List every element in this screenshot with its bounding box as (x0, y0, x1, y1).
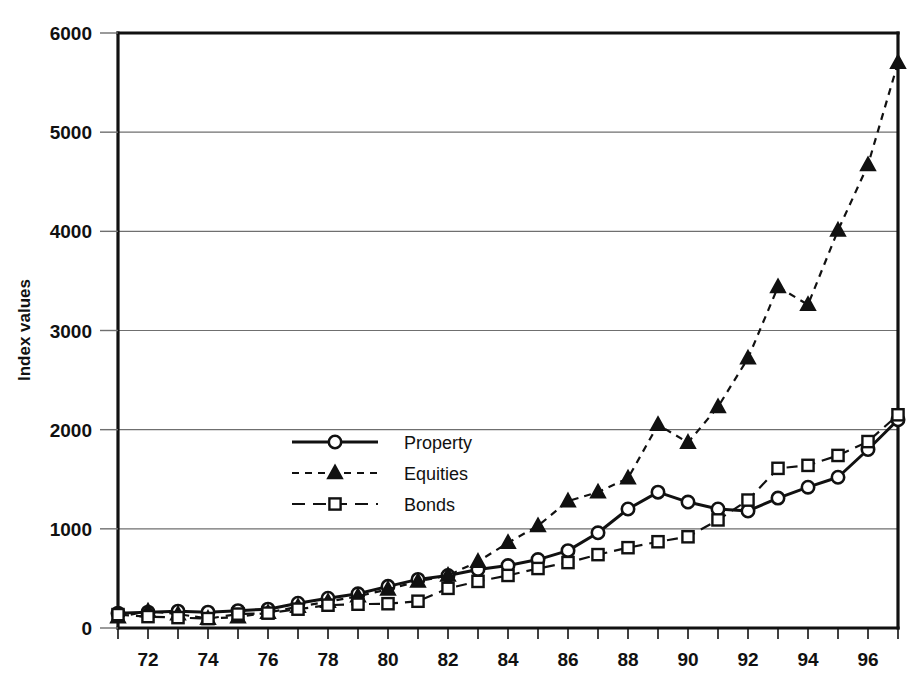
x-tick-label-88: 88 (617, 649, 638, 670)
marker-circle (682, 496, 694, 508)
marker-triangle (591, 485, 605, 498)
x-tick-label-80: 80 (377, 649, 398, 670)
y-tick-label-1000: 1000 (50, 519, 92, 540)
marker-square (172, 612, 183, 623)
legend-label-bonds: Bonds (404, 495, 455, 515)
gridlines-group (118, 33, 898, 529)
marker-circle (329, 436, 341, 448)
marker-square (802, 460, 813, 471)
x-tick-label-84: 84 (497, 649, 519, 670)
data-series-group (111, 55, 905, 624)
marker-square (832, 450, 843, 461)
marker-triangle (621, 471, 635, 484)
marker-square (862, 436, 873, 447)
series-line-property (118, 420, 898, 613)
y-tick-label-3000: 3000 (50, 321, 92, 342)
marker-square (412, 596, 423, 607)
marker-square (502, 570, 513, 581)
x-tick-label-96: 96 (857, 649, 878, 670)
marker-square (682, 531, 693, 542)
y-tick-label-4000: 4000 (50, 221, 92, 242)
x-tick-label-78: 78 (317, 649, 338, 670)
marker-circle (652, 486, 664, 498)
marker-square (742, 494, 753, 505)
marker-circle (832, 471, 844, 483)
legend-item-equities[interactable]: Equities (292, 464, 468, 484)
marker-square (472, 576, 483, 587)
series-line-bonds (118, 415, 898, 619)
marker-triangle (831, 223, 845, 236)
marker-square (592, 549, 603, 560)
marker-square (652, 536, 663, 547)
x-tick-label-76: 76 (257, 649, 278, 670)
marker-square (202, 613, 213, 624)
marker-triangle (801, 297, 815, 310)
y-tick-label-2000: 2000 (50, 420, 92, 441)
legend-label-equities: Equities (404, 464, 468, 484)
marker-square (262, 608, 273, 619)
marker-square (772, 463, 783, 474)
marker-square (292, 604, 303, 615)
series-bonds (112, 409, 903, 624)
x-tick-label-72: 72 (137, 649, 158, 670)
marker-triangle (741, 351, 755, 364)
legend-label-property: Property (404, 433, 472, 453)
marker-square (142, 611, 153, 622)
x-tick-label-90: 90 (677, 649, 698, 670)
marker-triangle (651, 417, 665, 430)
marker-square (112, 609, 123, 620)
marker-square (892, 409, 903, 420)
marker-circle (802, 481, 814, 493)
y-tick-label-6000: 6000 (50, 23, 92, 44)
marker-triangle (711, 399, 725, 412)
marker-triangle (328, 466, 342, 479)
y-axis-tick-labels: 0100020003000400050006000 (50, 23, 92, 639)
marker-square (322, 600, 333, 611)
marker-square (329, 498, 340, 509)
marker-circle (592, 527, 604, 539)
x-tick-label-94: 94 (797, 649, 819, 670)
y-axis-ticks (100, 33, 118, 628)
marker-square (382, 598, 393, 609)
marker-circle (562, 544, 574, 556)
x-tick-label-86: 86 (557, 649, 578, 670)
y-tick-label-0: 0 (81, 618, 92, 639)
y-tick-label-5000: 5000 (50, 122, 92, 143)
chart-legend: PropertyEquitiesBonds (292, 433, 472, 515)
marker-triangle (861, 157, 875, 170)
legend-item-bonds[interactable]: Bonds (292, 495, 455, 515)
marker-square (232, 609, 243, 620)
marker-triangle (891, 55, 905, 68)
marker-square (562, 557, 573, 568)
x-tick-label-74: 74 (197, 649, 219, 670)
marker-square (442, 583, 453, 594)
marker-circle (622, 503, 634, 515)
marker-square (622, 542, 633, 553)
marker-triangle (771, 279, 785, 292)
x-tick-label-92: 92 (737, 649, 758, 670)
marker-triangle (501, 535, 515, 548)
marker-square (352, 599, 363, 610)
marker-triangle (681, 435, 695, 448)
y-axis-title: Index values (15, 279, 34, 381)
x-tick-label-82: 82 (437, 649, 458, 670)
chart-container: 72747678808284868890929496 0100020003000… (0, 0, 920, 685)
legend-item-property[interactable]: Property (292, 433, 472, 453)
marker-circle (772, 492, 784, 504)
x-axis-ticks (118, 628, 898, 639)
marker-square (532, 563, 543, 574)
series-equities (111, 55, 905, 624)
line-chart: 72747678808284868890929496 0100020003000… (0, 0, 920, 685)
series-property (112, 414, 904, 620)
x-axis-tick-labels: 72747678808284868890929496 (137, 649, 878, 670)
marker-square (712, 514, 723, 525)
marker-triangle (471, 554, 485, 567)
